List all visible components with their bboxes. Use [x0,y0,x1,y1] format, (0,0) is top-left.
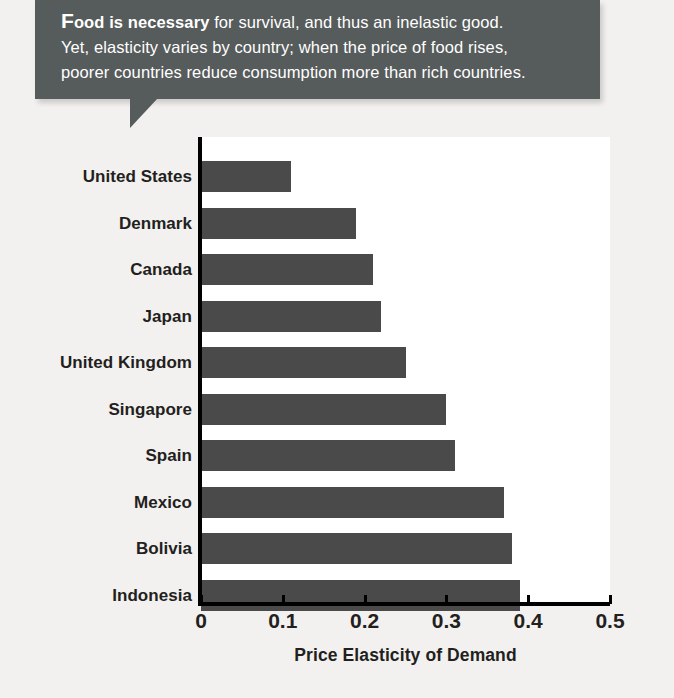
bar-category-label: Singapore [0,394,192,425]
bar [201,487,504,518]
x-axis-tick [527,595,530,604]
x-axis-title: Price Elasticity of Demand [201,645,610,666]
x-axis-tick-label: 0.4 [498,609,558,633]
bar [201,394,446,425]
callout-line-1: Food is necessary for survival, and thus… [61,10,574,35]
bar [201,254,373,285]
callout-lead-text: Food is necessary [61,13,209,31]
x-axis-tick [364,595,367,604]
bar-row: Canada [0,254,674,285]
bar-category-label: Mexico [0,487,192,518]
x-axis-tick-label: 0.2 [335,609,395,633]
x-axis-tick-label: 0.5 [580,609,640,633]
bar-category-label: Canada [0,254,192,285]
bar-row: United States [0,161,674,192]
callout-tail-pointer [130,98,158,128]
bar [201,533,512,564]
bar-row: Japan [0,301,674,332]
x-axis-tick-label: 0.1 [253,609,313,633]
x-axis-tick [445,595,448,604]
bar [201,301,381,332]
bar-category-label: Japan [0,301,192,332]
callout-box-wrapper: Food is necessary for survival, and thus… [35,0,600,99]
x-axis-line [198,602,610,606]
bar-row: United Kingdom [0,347,674,378]
bar-category-label: United States [0,161,192,192]
bar-category-label: Indonesia [0,580,192,611]
bar-category-label: Spain [0,440,192,471]
bar-row: Spain [0,440,674,471]
bar [201,161,291,192]
callout-drop-cap: F [61,9,74,32]
x-axis-tick [609,595,612,604]
bar [201,440,455,471]
callout-line-1-rest: for survival, and thus an inelastic good… [209,13,503,31]
bar [201,347,406,378]
bar-row: Denmark [0,208,674,239]
bar-row: Bolivia [0,533,674,564]
bar-chart: United StatesDenmarkCanadaJapanUnited Ki… [0,137,674,637]
x-axis-tick [282,595,285,604]
callout-box: Food is necessary for survival, and thus… [35,0,600,99]
bar-category-label: Bolivia [0,533,192,564]
x-axis-tick-label: 0 [171,609,231,633]
bar-category-label: Denmark [0,208,192,239]
callout-lead-rest: ood is necessary [74,13,210,31]
x-axis-tick-label: 0.3 [416,609,476,633]
bar [201,208,356,239]
bar-row: Mexico [0,487,674,518]
y-axis-line [198,137,202,604]
callout-line-2: Yet, elasticity varies by country; when … [61,35,574,60]
callout-line-3: poorer countries reduce consumption more… [61,60,574,85]
bar-category-label: United Kingdom [0,347,192,378]
bar-row: Singapore [0,394,674,425]
x-axis-tick [200,595,203,604]
